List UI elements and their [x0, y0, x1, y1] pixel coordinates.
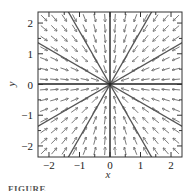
y-tick-label: −1: [21, 109, 33, 121]
field-arrow: [115, 45, 116, 53]
field-arrow: [51, 36, 57, 41]
field-arrow: [104, 34, 105, 42]
field-arrow: [82, 56, 88, 62]
field-arrow: [94, 147, 96, 155]
field-arrow: [104, 106, 106, 114]
field-arrow: [124, 147, 126, 155]
field-arrow: [172, 68, 180, 70]
field-arrow: [105, 24, 106, 32]
field-arrow: [133, 45, 138, 52]
field-arrow: [71, 98, 78, 101]
y-tick-label: 0: [28, 79, 34, 91]
field-arrow: [173, 148, 179, 154]
y-tick-label: −2: [21, 140, 33, 152]
field-arrow: [61, 128, 67, 134]
field-arrow: [153, 148, 158, 155]
field-arrow: [50, 89, 58, 90]
field-arrow: [94, 14, 96, 22]
y-tick-label: 1: [28, 48, 34, 60]
field-arrow: [115, 34, 116, 42]
field-arrow: [41, 26, 47, 31]
field-arrow: [143, 127, 148, 133]
field-arrow: [51, 138, 57, 144]
field-arrow: [41, 128, 48, 133]
field-arrow: [62, 148, 67, 155]
field-arrow: [131, 79, 139, 81]
field-arrow: [142, 98, 149, 101]
field-arrow: [162, 79, 170, 80]
field-arrow: [105, 14, 106, 22]
field-arrow: [153, 15, 158, 22]
field-arrow: [62, 25, 67, 31]
field-arrow: [40, 57, 47, 60]
field-arrow: [153, 25, 158, 31]
field-arrow: [40, 89, 48, 90]
field-arrow: [143, 118, 149, 124]
field-arrow: [153, 128, 159, 134]
field-arrow: [172, 79, 180, 80]
field-arrow: [162, 89, 170, 90]
field-arrow: [61, 36, 67, 42]
field-arrow: [163, 25, 169, 31]
x-tick-label: 2: [168, 159, 174, 171]
field-arrow: [173, 138, 179, 143]
field-arrow: [173, 26, 179, 31]
y-tick-labels: −2−1012: [21, 17, 33, 152]
x-tick-label: −1: [74, 159, 86, 171]
field-arrow: [153, 36, 159, 42]
field-arrow: [124, 35, 127, 43]
field-arrow: [81, 79, 89, 81]
field-arrow: [115, 137, 116, 145]
field-arrow: [93, 127, 96, 135]
field-arrow: [172, 89, 180, 90]
field-arrow: [115, 24, 116, 32]
x-tick-label: 1: [138, 159, 144, 171]
field-arrow: [124, 14, 126, 22]
field-arrow: [153, 118, 159, 123]
field-arrow: [50, 68, 58, 70]
field-arrow: [61, 46, 67, 51]
field-arrow: [41, 15, 47, 21]
field-arrow: [40, 79, 48, 80]
field-arrow: [82, 45, 87, 52]
field-arrow: [114, 55, 116, 63]
field-arrow: [40, 68, 48, 70]
field-arrow: [115, 127, 116, 135]
field-arrow: [142, 68, 149, 71]
field-arrow: [92, 66, 98, 72]
field-arrow: [122, 66, 128, 72]
field-arrow: [134, 137, 137, 144]
field-arrow: [124, 24, 126, 32]
phase-portrait-chart: −2−1012 −2−1012 x y: [0, 0, 194, 184]
field-arrow: [70, 79, 78, 80]
field-arrow: [51, 148, 56, 154]
field-arrow: [60, 79, 68, 80]
field-arrow: [143, 46, 149, 52]
field-arrow: [142, 57, 149, 62]
field-arrow: [173, 36, 180, 41]
field-arrow: [162, 108, 169, 111]
field-arrow: [133, 56, 139, 62]
field-arrow: [153, 46, 159, 51]
field-arrow: [83, 25, 86, 32]
field-arrow: [93, 45, 96, 52]
field-arrow: [50, 79, 58, 80]
field-arrow: [114, 106, 116, 114]
field-arrow: [91, 78, 99, 81]
field-arrow: [60, 99, 68, 102]
field-arrow: [83, 137, 86, 144]
field-arrow: [94, 137, 96, 145]
field-arrow: [173, 15, 179, 21]
field-arrow: [163, 148, 168, 154]
field-arrow: [104, 127, 105, 135]
field-arrow: [163, 138, 169, 144]
field-arrow: [134, 147, 137, 154]
field-arrow: [105, 147, 106, 155]
field-arrow: [60, 89, 68, 90]
field-arrow: [134, 25, 137, 32]
field-arrow: [82, 107, 88, 113]
field-arrow: [121, 88, 129, 91]
field-arrow: [142, 79, 150, 80]
field-arrow: [163, 15, 168, 21]
field-arrow: [124, 117, 127, 124]
